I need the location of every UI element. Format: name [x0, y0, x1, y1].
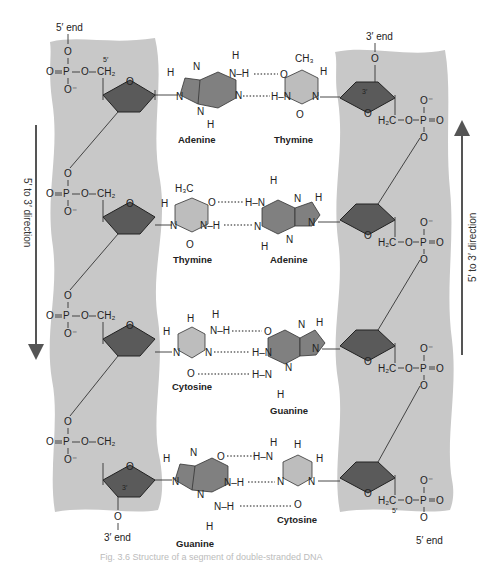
- svg-text:O: O: [208, 197, 216, 208]
- svg-text:O: O: [46, 310, 54, 321]
- svg-text:O⁻: O⁻: [64, 454, 77, 465]
- svg-text:N–H: N–H: [214, 501, 234, 512]
- svg-text:O: O: [46, 436, 54, 447]
- svg-text:O: O: [364, 488, 372, 499]
- svg-text:O: O: [280, 69, 288, 80]
- svg-text:P: P: [420, 115, 427, 126]
- svg-text:N: N: [312, 343, 319, 354]
- base-label-cytosine-3: Cytosine: [172, 381, 212, 392]
- svg-text:N: N: [294, 193, 301, 204]
- left-direction-label: 5′ to 3′ direction: [22, 178, 33, 247]
- svg-text:O⁻: O⁻: [420, 475, 433, 486]
- svg-text:O: O: [81, 310, 89, 321]
- svg-text:H: H: [212, 309, 219, 320]
- svg-text:O: O: [405, 115, 413, 126]
- svg-text:H: H: [163, 453, 170, 464]
- svg-text:O⁻: O⁻: [420, 95, 433, 106]
- svg-text:H: H: [320, 66, 327, 77]
- svg-text:O: O: [420, 132, 428, 143]
- svg-text:N: N: [197, 489, 204, 500]
- svg-text:P: P: [63, 310, 70, 321]
- svg-text:O: O: [81, 436, 89, 447]
- svg-text:CH₂: CH₂: [97, 66, 115, 77]
- svg-text:N: N: [308, 217, 315, 228]
- svg-text:N: N: [193, 61, 200, 72]
- svg-text:O: O: [420, 512, 428, 523]
- svg-text:H: H: [261, 241, 268, 252]
- svg-text:O: O: [296, 109, 304, 120]
- base-label-adenine-2: Adenine: [270, 254, 307, 265]
- right-direction-label: 5′ to 3′ direction: [467, 213, 478, 282]
- svg-text:O: O: [371, 53, 379, 64]
- figure-caption: Fig. 3.6 Structure of a segment of doubl…: [100, 552, 323, 562]
- svg-text:O: O: [436, 237, 444, 248]
- svg-text:N: N: [285, 362, 292, 373]
- svg-text:N: N: [235, 90, 242, 101]
- base-pair-4: HN NN O N–H N–HH Guanine HH–N HH NN O Cy…: [155, 437, 340, 549]
- svg-text:O: O: [81, 66, 89, 77]
- svg-text:H₂C: H₂C: [378, 495, 396, 506]
- base-pair-3: HH HN–H NN O Cytosine O H–N N H–NH NH N …: [155, 309, 340, 416]
- svg-text:H: H: [270, 175, 277, 186]
- svg-text:H: H: [232, 50, 239, 61]
- base-label-thymine-2: Thymine: [173, 254, 212, 265]
- svg-text:N–H: N–H: [229, 68, 249, 79]
- left-5-end-label: 5′ end: [56, 22, 83, 33]
- svg-text:H–N: H–N: [245, 197, 265, 208]
- base-pair-1: HN NN H HN–H N Adenine O CH₃ H H–NN O Th…: [155, 50, 340, 145]
- svg-text:O: O: [187, 368, 195, 379]
- svg-text:P: P: [63, 436, 70, 447]
- svg-text:O: O: [126, 320, 134, 331]
- svg-text:H–N: H–N: [252, 369, 272, 380]
- base-label-cytosine-4: Cytosine: [277, 514, 317, 525]
- svg-text:5′: 5′: [392, 507, 398, 514]
- svg-text:N: N: [190, 447, 197, 458]
- svg-text:N: N: [205, 347, 212, 358]
- svg-text:H₃C: H₃C: [175, 183, 194, 194]
- svg-text:O: O: [126, 198, 134, 209]
- svg-text:O: O: [64, 290, 72, 301]
- svg-text:O: O: [405, 237, 413, 248]
- svg-text:N–H: N–H: [200, 220, 220, 231]
- svg-text:O: O: [436, 115, 444, 126]
- svg-text:N: N: [172, 476, 179, 487]
- right-3-end-label: 3′ end: [366, 31, 393, 42]
- svg-text:O: O: [64, 46, 72, 57]
- svg-text:O⁻: O⁻: [64, 84, 77, 95]
- svg-text:O: O: [81, 188, 89, 199]
- svg-text:H–N: H–N: [271, 91, 291, 102]
- svg-text:O⁻: O⁻: [64, 328, 77, 339]
- svg-text:O: O: [217, 451, 225, 462]
- svg-text:P: P: [63, 188, 70, 199]
- svg-text:O: O: [436, 363, 444, 374]
- svg-text:O: O: [264, 326, 272, 337]
- svg-text:P: P: [420, 495, 427, 506]
- svg-text:5′: 5′: [103, 56, 109, 63]
- svg-text:3′: 3′: [362, 88, 368, 95]
- svg-text:O: O: [64, 168, 72, 179]
- svg-text:H: H: [161, 198, 168, 209]
- svg-text:CH₂: CH₂: [97, 436, 115, 447]
- base-pair-2: H₃C H O NN–H O Thymine HH–N NN H NH N Ad…: [155, 175, 340, 265]
- base-label-thymine-1: Thymine: [274, 134, 313, 145]
- svg-text:N–H: N–H: [224, 477, 244, 488]
- base-label-guanine-3: Guanine: [270, 405, 308, 416]
- svg-text:N: N: [277, 476, 284, 487]
- svg-text:H: H: [163, 326, 170, 337]
- svg-text:H–N: H–N: [252, 347, 272, 358]
- svg-text:O: O: [405, 495, 413, 506]
- svg-text:O: O: [114, 511, 122, 522]
- svg-text:N: N: [197, 106, 204, 117]
- svg-text:P: P: [420, 237, 427, 248]
- svg-text:N: N: [308, 476, 315, 487]
- svg-text:O: O: [364, 356, 372, 367]
- svg-text:O⁻: O⁻: [420, 343, 433, 354]
- svg-text:H: H: [294, 439, 301, 450]
- svg-text:O: O: [294, 499, 302, 510]
- svg-text:H: H: [167, 67, 174, 78]
- svg-text:N: N: [286, 234, 293, 245]
- svg-text:H: H: [316, 317, 323, 328]
- svg-text:N: N: [173, 347, 180, 358]
- svg-text:O: O: [436, 495, 444, 506]
- svg-text:H: H: [207, 119, 214, 130]
